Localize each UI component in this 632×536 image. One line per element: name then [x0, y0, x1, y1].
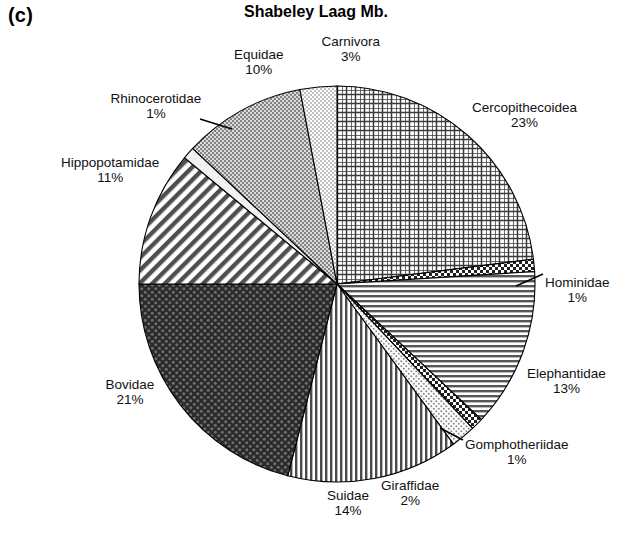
- pie-label-name: Gomphotheriidae: [465, 437, 569, 452]
- pie-label-name: Carnivora: [322, 34, 381, 49]
- pie-label-name: Hominidae: [545, 275, 610, 290]
- pie-label-suidae: Suidae14%: [327, 488, 369, 518]
- pie-label-value: 3%: [322, 49, 381, 64]
- pie-label-elephantidae: Elephantidae13%: [527, 366, 606, 396]
- pie-label-value: 14%: [327, 503, 369, 518]
- pie-label-value: 23%: [472, 115, 577, 130]
- pie-label-name: Cercopithecoidea: [472, 100, 577, 115]
- pie-label-value: 10%: [234, 62, 284, 77]
- pie-label-equidae: Equidae10%: [234, 47, 284, 77]
- pie-label-value: 1%: [465, 452, 569, 467]
- pie-label-value: 21%: [106, 392, 155, 407]
- pie-label-name: Equidae: [234, 47, 284, 62]
- pie-label-bovidae: Bovidae21%: [106, 377, 155, 407]
- pie-label-hippopotamidae: Hippopotamidae11%: [61, 155, 159, 185]
- pie-label-cercopithecoidea: Cercopithecoidea23%: [472, 100, 577, 130]
- pie-label-value: 11%: [61, 170, 159, 185]
- pie-label-carnivora: Carnivora3%: [322, 34, 381, 64]
- pie-label-name: Giraffidae: [381, 478, 439, 493]
- pie-label-hominidae: Hominidae1%: [545, 275, 610, 305]
- pie-label-rhinocerotidae: Rhinocerotidae1%: [111, 91, 202, 121]
- pie-label-value: 1%: [545, 290, 610, 305]
- pie-label-name: Hippopotamidae: [61, 155, 159, 170]
- pie-label-name: Rhinocerotidae: [111, 91, 202, 106]
- pie-label-gomphotheriidae: Gomphotheriidae1%: [465, 437, 569, 467]
- pie-label-name: Elephantidae: [527, 366, 606, 381]
- pie-label-value: 13%: [527, 381, 606, 396]
- pie-label-name: Bovidae: [106, 377, 155, 392]
- pie-label-giraffidae: Giraffidae2%: [381, 478, 439, 508]
- pie-slices: [139, 86, 535, 482]
- pie-label-value: 1%: [111, 106, 202, 121]
- pie-label-name: Suidae: [327, 488, 369, 503]
- pie-label-value: 2%: [381, 493, 439, 508]
